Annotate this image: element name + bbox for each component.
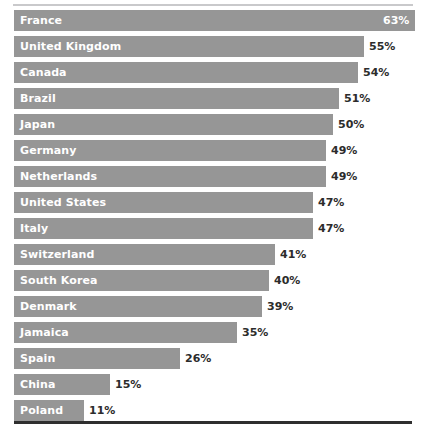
bar xyxy=(14,192,313,213)
bar-row: France63% xyxy=(0,9,427,35)
bar-value-label: 26% xyxy=(185,348,211,369)
bar xyxy=(14,400,84,421)
bar xyxy=(14,114,333,135)
bar-value-label: 49% xyxy=(331,166,357,187)
bar-row: Italy47% xyxy=(0,217,427,243)
bar-chart: France63%United Kingdom55%Canada54%Brazi… xyxy=(0,0,427,437)
bar xyxy=(14,270,269,291)
bar-value-label: 11% xyxy=(89,400,115,421)
bar xyxy=(14,140,326,161)
bar xyxy=(14,88,339,109)
chart-plot-area: France63%United Kingdom55%Canada54%Brazi… xyxy=(0,9,427,425)
bar-row: United States47% xyxy=(0,191,427,217)
bar-value-label: 40% xyxy=(274,270,300,291)
bar xyxy=(14,374,110,395)
bar xyxy=(14,62,358,83)
bar-value-label: 41% xyxy=(280,244,306,265)
bar-value-label: 49% xyxy=(331,140,357,161)
bar-row: Brazil51% xyxy=(0,87,427,113)
bar-value-label: 47% xyxy=(318,192,344,213)
bar-row: United Kingdom55% xyxy=(0,35,427,61)
bar xyxy=(14,218,313,239)
bar-row: Germany49% xyxy=(0,139,427,165)
bar-row: Spain26% xyxy=(0,347,427,373)
bar-value-label: 39% xyxy=(267,296,293,317)
bar-row: Netherlands49% xyxy=(0,165,427,191)
bar xyxy=(14,296,262,317)
bar-value-label: 63% xyxy=(383,10,409,31)
bar-row: Canada54% xyxy=(0,61,427,87)
bar-value-label: 15% xyxy=(115,374,141,395)
top-divider xyxy=(13,4,413,6)
bar xyxy=(14,36,364,57)
bar xyxy=(14,10,415,31)
bar-row: China15% xyxy=(0,373,427,399)
bar-row: Jamaica35% xyxy=(0,321,427,347)
bar-row: Switzerland41% xyxy=(0,243,427,269)
bar xyxy=(14,348,180,369)
bar-value-label: 50% xyxy=(338,114,364,135)
bar-value-label: 54% xyxy=(363,62,389,83)
bar xyxy=(14,244,275,265)
bar-row: Denmark39% xyxy=(0,295,427,321)
bar-value-label: 55% xyxy=(369,36,395,57)
bar xyxy=(14,322,237,343)
bar-row: South Korea40% xyxy=(0,269,427,295)
bar-row: Japan50% xyxy=(0,113,427,139)
bar-value-label: 51% xyxy=(344,88,370,109)
bottom-divider xyxy=(14,421,412,424)
bar-value-label: 47% xyxy=(318,218,344,239)
bar-value-label: 35% xyxy=(242,322,268,343)
bar xyxy=(14,166,326,187)
